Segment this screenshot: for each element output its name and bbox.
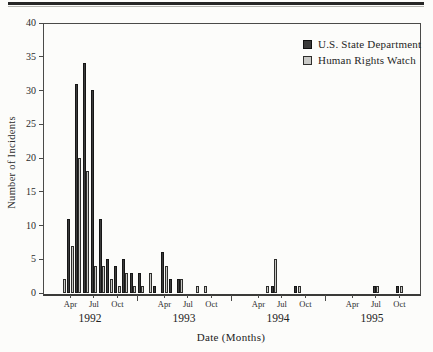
x-month-tick: [164, 295, 165, 298]
x-month-label: Jul: [364, 300, 388, 309]
x-month-label: Jul: [176, 300, 200, 309]
bar-human-rights-watch: [400, 286, 403, 293]
y-tick: [39, 23, 43, 24]
x-year-boundary-tick: [231, 295, 232, 301]
x-month-label: Oct: [105, 300, 129, 309]
bar-human-rights-watch: [125, 273, 128, 293]
x-month-tick: [93, 295, 94, 298]
y-tick-label: 0: [10, 288, 36, 298]
bar-human-rights-watch: [63, 279, 66, 293]
y-tick-label: 15: [10, 187, 36, 197]
x-month-tick: [399, 295, 400, 298]
state-department-swatch-icon: [303, 40, 312, 49]
y-tick-label: 20: [10, 153, 36, 163]
legend-item-state-department: U.S. State Department: [303, 38, 421, 50]
y-tick-label: 25: [10, 119, 36, 129]
human-rights-watch-swatch-icon: [303, 56, 312, 65]
x-month-label: Jul: [82, 300, 106, 309]
bar-human-rights-watch: [78, 158, 81, 293]
bar-human-rights-watch: [102, 266, 105, 293]
chart-page: Number of Incidents 0510152025303540 Apr…: [0, 0, 433, 352]
y-tick: [39, 158, 43, 159]
x-month-tick: [258, 295, 259, 298]
y-tick-label: 5: [10, 254, 36, 264]
x-year-label: 1992: [60, 312, 120, 324]
x-year-label: 1993: [154, 312, 214, 324]
bar-human-rights-watch: [376, 286, 379, 293]
bar-human-rights-watch: [196, 286, 199, 293]
y-tick: [39, 191, 43, 192]
y-tick: [39, 293, 43, 294]
x-month-label: Apr: [340, 300, 364, 309]
x-axis-title: Date (Months): [131, 331, 331, 343]
y-tick: [39, 259, 43, 260]
bar-human-rights-watch: [110, 279, 113, 293]
bar-human-rights-watch: [118, 286, 121, 293]
y-tick: [39, 225, 43, 226]
x-month-tick: [305, 295, 306, 298]
x-year-boundary-tick: [137, 295, 138, 301]
x-month-tick: [211, 295, 212, 298]
x-month-label: Apr: [152, 300, 176, 309]
legend-label-state-department: U.S. State Department: [318, 38, 421, 50]
y-tick: [39, 124, 43, 125]
bar-human-rights-watch: [180, 279, 183, 293]
x-year-label: 1995: [342, 312, 402, 324]
bar-human-rights-watch: [149, 273, 152, 293]
x-month-tick: [352, 295, 353, 298]
bar-human-rights-watch: [141, 286, 144, 293]
bar-human-rights-watch: [274, 259, 277, 293]
x-month-tick: [375, 295, 376, 298]
legend-label-human-rights-watch: Human Rights Watch: [318, 54, 416, 66]
y-tick-label: 40: [10, 18, 36, 28]
bar-human-rights-watch: [165, 266, 168, 293]
x-month-tick: [117, 295, 118, 298]
bar-state-department: [91, 90, 94, 293]
bar-human-rights-watch: [266, 286, 269, 293]
bar-human-rights-watch: [298, 286, 301, 293]
bar-human-rights-watch: [86, 171, 89, 293]
legend: U.S. State Department Human Rights Watch: [303, 38, 421, 70]
bar-human-rights-watch: [71, 246, 74, 293]
x-year-boundary-tick: [325, 295, 326, 301]
y-tick-label: 30: [10, 86, 36, 96]
x-month-label: Oct: [199, 300, 223, 309]
bar-human-rights-watch: [94, 266, 97, 293]
x-month-label: Jul: [270, 300, 294, 309]
y-tick: [39, 90, 43, 91]
page-top-rule-shadow: [8, 6, 424, 7]
bar-state-department: [169, 279, 172, 293]
x-year-label: 1994: [248, 312, 308, 324]
legend-item-human-rights-watch: Human Rights Watch: [303, 54, 421, 66]
x-month-label: Oct: [387, 300, 411, 309]
x-month-label: Apr: [246, 300, 270, 309]
bar-state-department: [153, 286, 156, 293]
y-tick-label: 35: [10, 52, 36, 62]
y-tick-label: 10: [10, 221, 36, 231]
x-month-tick: [187, 295, 188, 298]
bar-human-rights-watch: [133, 286, 136, 293]
x-month-tick: [70, 295, 71, 298]
x-month-label: Oct: [293, 300, 317, 309]
x-month-tick: [281, 295, 282, 298]
y-tick: [39, 56, 43, 57]
page-top-rule: [8, 2, 424, 5]
bar-human-rights-watch: [204, 286, 207, 293]
x-month-label: Apr: [58, 300, 82, 309]
